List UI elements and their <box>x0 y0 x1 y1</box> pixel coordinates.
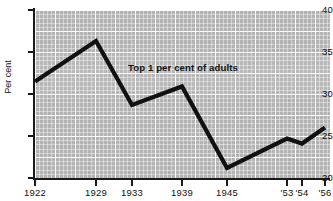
y-tick-label: 40 <box>307 4 333 15</box>
x-tick-mark <box>301 180 303 186</box>
chart-container: 4035302520 19221929193319391945'53'54'56… <box>0 0 333 201</box>
x-tick-mark <box>324 180 326 186</box>
x-tick-label: 1922 <box>20 187 50 198</box>
y-tick-mark <box>28 51 34 53</box>
y-tick-mark <box>28 177 34 179</box>
x-tick-mark <box>131 180 133 186</box>
x-tick-label: 1939 <box>167 187 197 198</box>
y-tick-label: 25 <box>307 130 333 141</box>
series-annotation-label: Top 1 per cent of adults <box>128 62 238 73</box>
x-tick-mark <box>181 180 183 186</box>
x-tick-mark <box>286 180 288 186</box>
x-tick-label: 1929 <box>81 187 111 198</box>
y-tick-mark <box>28 9 34 11</box>
plot-area <box>35 10 330 178</box>
x-tick-mark <box>34 180 36 186</box>
x-tick-label: '56 <box>310 187 333 198</box>
y-tick-mark <box>28 93 34 95</box>
x-tick-mark <box>226 180 228 186</box>
y-tick-label: 20 <box>307 172 333 183</box>
series-line-top-1-percent <box>35 10 330 178</box>
y-tick-label: 30 <box>307 88 333 99</box>
x-tick-mark <box>95 180 97 186</box>
x-tick-label: 1933 <box>117 187 147 198</box>
y-tick-label: 35 <box>307 46 333 57</box>
y-tick-mark <box>28 135 34 137</box>
x-tick-label: 1945 <box>212 187 242 198</box>
y-axis-label: Per cent <box>3 51 13 103</box>
